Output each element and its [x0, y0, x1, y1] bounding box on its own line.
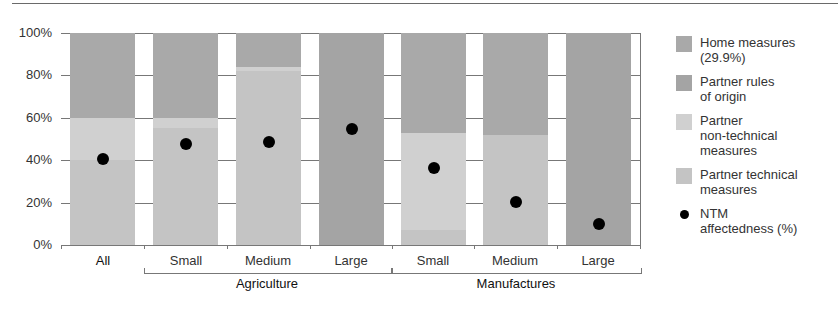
- bar-3: [319, 33, 384, 245]
- bar-segment: [401, 133, 466, 231]
- x-label-mf-small: Small: [397, 253, 469, 268]
- group-label-manufactures: Manufactures: [392, 276, 640, 291]
- legend-label: Partner: [700, 113, 836, 128]
- y-tick-label: 60%: [0, 110, 52, 125]
- x-tick: [310, 245, 311, 249]
- bar-5: [483, 33, 548, 245]
- ntm-affectedness-dot: [180, 138, 192, 150]
- legend-label: measures: [700, 182, 836, 197]
- legend: Home measures (29.9%) Partner rules of o…: [676, 35, 836, 245]
- bar-segment: [70, 33, 135, 118]
- legend-label: NTM: [700, 206, 836, 221]
- legend-swatch-home: [676, 36, 692, 52]
- legend-item-home-measures: Home measures (29.9%): [676, 35, 836, 65]
- x-tick: [557, 245, 558, 249]
- bar-segment: [236, 67, 301, 71]
- y-tick-label: 20%: [0, 195, 52, 210]
- group-bracket-agriculture: [144, 268, 392, 274]
- bar-segment: [153, 33, 218, 118]
- legend-item-ntm-affectedness: NTM affectedness (%): [676, 206, 836, 236]
- legend-swatch-technical: [676, 168, 692, 184]
- legend-item-rules-of-origin: Partner rules of origin: [676, 74, 836, 104]
- x-label-ag-small: Small: [150, 253, 222, 268]
- bar-segment: [483, 33, 548, 135]
- legend-label: (29.9%): [700, 50, 836, 65]
- legend-swatch-non-technical: [676, 114, 692, 130]
- ntm-affectedness-dot: [346, 123, 358, 135]
- bar-segment: [236, 33, 301, 67]
- bar-segment: [401, 230, 466, 245]
- bar-segment: [236, 71, 301, 245]
- bar-segment: [70, 160, 135, 245]
- x-tick: [227, 245, 228, 249]
- x-tick: [392, 245, 393, 249]
- legend-swatch-rules: [676, 75, 692, 91]
- x-label-ag-medium: Medium: [232, 253, 304, 268]
- x-axis: [61, 245, 641, 246]
- legend-label: Partner rules: [700, 74, 836, 89]
- right-axis: [640, 33, 641, 247]
- ntm-affectedness-dot: [428, 162, 440, 174]
- ntm-affectedness-dot: [510, 196, 522, 208]
- bar-0: [70, 33, 135, 245]
- x-label-mf-large: Large: [562, 253, 634, 268]
- legend-label: non-technical: [700, 128, 836, 143]
- x-label-mf-medium: Medium: [479, 253, 551, 268]
- dot-marker-icon: [680, 210, 689, 219]
- bar-segment: [401, 33, 466, 133]
- y-tick-label: 80%: [0, 67, 52, 82]
- x-tick: [61, 245, 62, 249]
- bar-segment: [319, 33, 384, 245]
- x-tick: [640, 245, 641, 249]
- ntm-affectedness-dot: [263, 136, 275, 148]
- bar-segment: [153, 118, 218, 129]
- ntm-affectedness-dot: [97, 153, 109, 165]
- legend-label: of origin: [700, 89, 836, 104]
- legend-label: measures: [700, 143, 836, 158]
- legend-label: affectedness (%): [700, 221, 836, 236]
- group-bracket-manufactures: [392, 268, 642, 274]
- y-tick-label: 100%: [0, 25, 52, 40]
- y-tick-label: 0%: [0, 237, 52, 252]
- legend-item-non-technical: Partner non-technical measures: [676, 113, 836, 158]
- x-tick: [474, 245, 475, 249]
- legend-label: Home measures: [700, 35, 836, 50]
- legend-item-technical: Partner technical measures: [676, 167, 836, 197]
- bar-4: [401, 33, 466, 245]
- bar-6: [566, 33, 631, 245]
- ntm-affectedness-dot: [593, 218, 605, 230]
- bar-segment: [483, 135, 548, 245]
- legend-label: Partner technical: [700, 167, 836, 182]
- bar-segment: [566, 33, 631, 245]
- x-label-ag-large: Large: [315, 253, 387, 268]
- x-label-all: All: [70, 253, 136, 268]
- group-label-agriculture: Agriculture: [144, 276, 390, 291]
- y-tick-label: 40%: [0, 152, 52, 167]
- x-tick: [144, 245, 145, 249]
